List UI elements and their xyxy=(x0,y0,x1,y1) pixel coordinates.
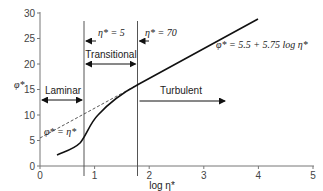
laminar-label: Laminar xyxy=(45,85,82,96)
log-law-equation: φ* = 5.5 + 5.75 log η* xyxy=(216,39,308,50)
eta70-label: η* = 70 xyxy=(145,27,177,38)
y-tick-labels: 0 5 10 15 20 25 30 xyxy=(24,8,36,172)
y-tick-label: 20 xyxy=(24,59,36,70)
y-axis-title: φ* xyxy=(14,79,25,90)
chart: 0 5 10 15 20 25 30 0 1 2 3 4 5 φ* log η*… xyxy=(0,0,323,191)
transitional-label: Transitional xyxy=(85,49,136,60)
x-tick-label: 0 xyxy=(37,170,43,181)
turbulent-label: Turbulent xyxy=(160,85,202,96)
y-tick-label: 15 xyxy=(24,84,36,95)
linear-law-equation: φ* = η* xyxy=(44,126,76,137)
x-tick-label: 4 xyxy=(256,170,262,181)
x-tick-labels: 0 1 2 3 4 5 xyxy=(37,170,316,181)
x-tick-label: 5 xyxy=(310,170,316,181)
eta5-label: η* = 5 xyxy=(98,27,125,38)
x-tick-label: 3 xyxy=(201,170,207,181)
y-tick-label: 10 xyxy=(24,110,36,121)
y-tick-label: 25 xyxy=(24,33,36,44)
y-tick-label: 30 xyxy=(24,8,36,19)
y-tick-label: 0 xyxy=(29,161,35,172)
x-tick-label: 1 xyxy=(92,170,98,181)
x-axis-title: log η* xyxy=(149,180,175,191)
y-tick-label: 5 xyxy=(29,135,35,146)
